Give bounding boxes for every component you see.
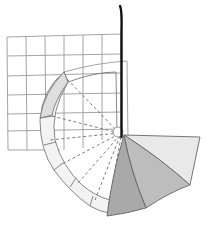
diagram-svg — [0, 0, 208, 225]
vertical-pole — [120, 6, 122, 137]
grid — [7, 34, 128, 150]
fan-panels — [107, 135, 200, 216]
band-inner-arc — [68, 72, 117, 135]
diagram-canvas — [0, 0, 208, 225]
